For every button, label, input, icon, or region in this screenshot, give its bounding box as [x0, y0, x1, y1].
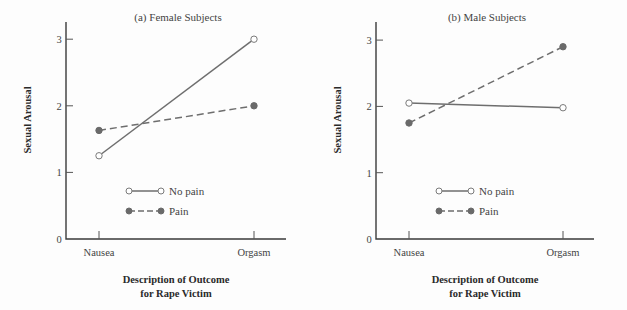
data-point-marker — [560, 44, 566, 50]
legend-marker-icon — [158, 208, 164, 214]
legend-marker-icon — [468, 188, 474, 194]
legend-marker-icon — [158, 188, 164, 194]
series-line — [99, 39, 254, 156]
series-line — [409, 103, 563, 108]
legend-label: No pain — [479, 185, 515, 197]
x-axis-label-line1: Description of Outcome — [432, 274, 539, 285]
series-line — [99, 106, 254, 131]
legend-item: No pain — [126, 185, 205, 197]
series-no-pain — [406, 100, 566, 111]
y-axis-label: Sexual Arousal — [332, 86, 343, 153]
legend-item: Pain — [126, 205, 189, 217]
x-tick-label: Nausea — [84, 247, 115, 258]
data-point-marker — [406, 100, 412, 106]
legend-label: Pain — [479, 205, 499, 217]
data-point-marker — [251, 103, 257, 109]
chart-title: (a) Female Subjects — [134, 11, 221, 24]
legend-label: No pain — [169, 185, 205, 197]
x-tick-label: Nausea — [394, 247, 425, 258]
legend-marker-icon — [468, 208, 474, 214]
y-axis-label: Sexual Arousal — [22, 86, 33, 153]
y-tick-label: 1 — [56, 167, 61, 178]
y-tick-label: 2 — [56, 101, 61, 112]
y-tick-label: 0 — [56, 234, 61, 245]
x-tick-label: Orgasm — [237, 247, 270, 258]
y-tick-label: 2 — [366, 101, 371, 112]
data-point-marker — [251, 36, 257, 42]
series-pain — [96, 103, 257, 134]
legend-marker-icon — [126, 208, 132, 214]
legend-label: Pain — [169, 205, 189, 217]
y-tick-label: 1 — [366, 168, 371, 179]
y-tick-label: 3 — [56, 34, 61, 45]
y-tick-label: 3 — [366, 35, 371, 46]
data-point-marker — [96, 127, 102, 133]
data-point-marker — [96, 153, 102, 159]
panel-female: (a) Female Subjects0123NauseaOrgasmSexua… — [22, 11, 286, 299]
x-axis-label-line2: for Rape Victim — [140, 288, 212, 299]
legend-marker-icon — [436, 208, 442, 214]
figure: (a) Female Subjects0123NauseaOrgasmSexua… — [0, 0, 627, 310]
x-axis-label-line1: Description of Outcome — [123, 274, 230, 285]
chart-title: (b) Male Subjects — [448, 11, 526, 24]
legend-item: Pain — [436, 205, 499, 217]
x-tick-label: Orgasm — [546, 247, 579, 258]
legend-item: No pain — [436, 185, 515, 197]
series-line — [409, 47, 563, 123]
x-axis-label-line2: for Rape Victim — [449, 288, 521, 299]
series-pain — [406, 44, 566, 127]
legend-marker-icon — [126, 188, 132, 194]
series-no-pain — [96, 36, 257, 159]
y-tick-label: 0 — [366, 234, 371, 245]
legend-marker-icon — [436, 188, 442, 194]
data-point-marker — [560, 105, 566, 111]
panel-male: (b) Male Subjects0123NauseaOrgasmSexual … — [332, 11, 594, 299]
data-point-marker — [406, 120, 412, 126]
